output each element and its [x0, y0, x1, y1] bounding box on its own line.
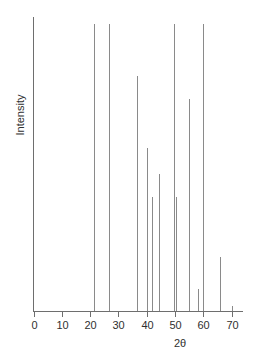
x-axis-title: 2θ — [174, 337, 186, 349]
peak-series — [95, 24, 233, 312]
y-axis-title: Intensity — [14, 94, 26, 135]
x-axis-tick-label: 10 — [56, 319, 68, 331]
x-axis-tick-label: 60 — [197, 319, 209, 331]
x-axis-tick-label: 0 — [31, 319, 37, 331]
x-axis-ticks — [35, 312, 233, 317]
x-axis-tick-labels: 010203040506070 — [31, 319, 238, 331]
x-axis-tick-label: 40 — [141, 319, 153, 331]
x-axis-tick-label: 20 — [84, 319, 96, 331]
xrd-diffractogram-figure: 010203040506070 2θ Intensity — [0, 0, 258, 357]
x-axis-tick-label: 30 — [112, 319, 124, 331]
x-axis-tick-label: 70 — [226, 319, 238, 331]
x-axis-tick-label: 50 — [169, 319, 181, 331]
chart-canvas: 010203040506070 2θ Intensity — [0, 0, 258, 357]
